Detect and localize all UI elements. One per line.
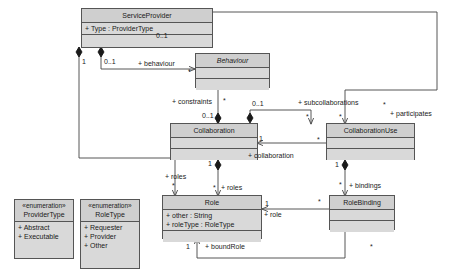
multiplicity: 1 xyxy=(259,135,263,143)
class-service-provider[interactable]: ServiceProvider + Type : ProviderType xyxy=(81,8,213,48)
class-title: Behaviour xyxy=(196,54,269,68)
multiplicity: * xyxy=(172,182,175,190)
association-label-subcollaborations: + subcollaborations xyxy=(298,99,359,107)
operations-compartment xyxy=(330,221,394,232)
uml-class-diagram: ServiceProvider + Type : ProviderType Be… xyxy=(0,0,453,276)
enum-title: «enumeration» ProviderType xyxy=(15,200,73,222)
association-label-behaviour: + behaviour xyxy=(138,60,175,68)
attributes-compartment: + Type : ProviderType xyxy=(82,23,212,35)
operations-compartment xyxy=(163,231,261,242)
enum-literal: + Requester xyxy=(84,223,136,232)
multiplicity: * xyxy=(339,181,342,189)
attribute: + roleType : RoleType xyxy=(166,220,258,229)
association-label-collaboration: + collaboration xyxy=(248,152,294,160)
class-title: CollaborationUse xyxy=(327,124,414,138)
operations-compartment xyxy=(327,149,414,160)
operations-compartment xyxy=(82,35,212,46)
multiplicity: 0..1 xyxy=(104,58,116,66)
multiplicity: * xyxy=(383,101,386,109)
operations-compartment xyxy=(171,149,257,160)
association-label-constraints: + constraints xyxy=(172,98,212,106)
attributes-compartment: + other : String + roleType : RoleType xyxy=(163,210,261,231)
class-collaboration[interactable]: Collaboration xyxy=(170,123,258,160)
attributes-compartment xyxy=(330,210,394,221)
multiplicity: * xyxy=(370,243,373,251)
enum-literal: + Provider xyxy=(84,232,136,241)
multiplicity: * xyxy=(317,136,320,144)
multiplicity: * xyxy=(318,198,321,206)
class-collaboration-use[interactable]: CollaborationUse xyxy=(326,123,415,160)
class-behaviour[interactable]: Behaviour xyxy=(195,53,270,88)
enum-literal: + Abstract xyxy=(18,223,70,232)
literals-compartment: + Abstract + Executable xyxy=(15,222,73,242)
class-title: RoleBinding xyxy=(330,196,394,210)
operations-compartment xyxy=(196,79,269,90)
attributes-compartment xyxy=(327,138,414,149)
class-title: ServiceProvider xyxy=(82,9,212,23)
class-title: Collaboration xyxy=(171,124,257,138)
attributes-compartment xyxy=(196,68,269,79)
multiplicity: 1 xyxy=(208,160,212,168)
multiplicity: 0..1 xyxy=(252,100,264,108)
multiplicity: * xyxy=(188,68,191,76)
association-label-roles-left: + roles xyxy=(165,173,186,181)
association-label-boundrole: + boundRole xyxy=(205,243,245,251)
enum-title: «enumeration» RoleType xyxy=(81,200,139,222)
class-role-binding[interactable]: RoleBinding xyxy=(329,195,395,230)
enum-literal: + Other xyxy=(84,241,136,250)
association-label-roles-right: + roles xyxy=(221,184,242,192)
multiplicity: 1 xyxy=(82,58,86,66)
literals-compartment: + Requester + Provider + Other xyxy=(81,222,139,251)
association-label-bindings: + bindings xyxy=(349,182,381,190)
association-label-participates: + participates xyxy=(390,110,432,118)
attributes-compartment xyxy=(171,138,257,149)
attribute: + Type : ProviderType xyxy=(85,24,209,33)
enum-literal: + Executable xyxy=(18,232,70,241)
enumeration-role-type[interactable]: «enumeration» RoleType + Requester + Pro… xyxy=(80,199,140,269)
multiplicity: 1 xyxy=(335,161,339,169)
multiplicity: 0..1 xyxy=(202,112,214,120)
multiplicity: * xyxy=(223,97,226,105)
multiplicity: 0..1 xyxy=(156,32,168,40)
class-role[interactable]: Role + other : String + roleType : RoleT… xyxy=(162,195,262,239)
stereotype: «enumeration» xyxy=(83,202,137,210)
class-title: Role xyxy=(163,196,261,210)
multiplicity: * xyxy=(213,184,216,192)
enum-name: RoleType xyxy=(95,211,125,218)
enumeration-provider-type[interactable]: «enumeration» ProviderType + Abstract + … xyxy=(14,199,74,259)
multiplicity: * xyxy=(339,113,342,121)
multiplicity: 1 xyxy=(186,243,190,251)
enum-name: ProviderType xyxy=(23,211,64,218)
attribute: + other : String xyxy=(166,211,258,220)
multiplicity: 1 xyxy=(265,200,269,208)
stereotype: «enumeration» xyxy=(17,202,71,210)
association-label-role: + role xyxy=(264,211,282,219)
multiplicity: * xyxy=(306,113,309,121)
